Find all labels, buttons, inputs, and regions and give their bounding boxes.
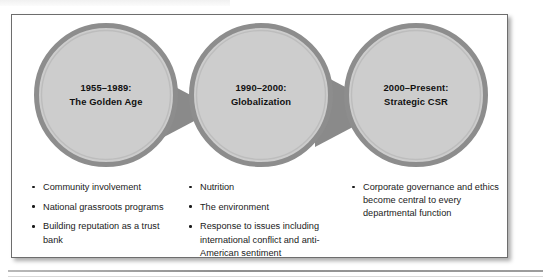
list-item-text: Building reputation as a trust bank: [43, 220, 172, 246]
list-item: Community involvement: [32, 181, 172, 194]
stage-label-strategic-csr-line1: 2000–Present:: [346, 81, 486, 95]
bullet-list-strategic-csr: Corporate governance and ethics become c…: [352, 181, 502, 221]
list-item: Nutrition: [189, 181, 339, 194]
stage-label-golden-age-line2: The Golden Age: [36, 95, 176, 109]
bullet-list-golden-age: Community involvement National grassroot…: [32, 181, 172, 247]
list-item-text: Corporate governance and ethics become c…: [363, 181, 502, 221]
list-item: Response to issues including internation…: [189, 220, 339, 260]
bullet-dot-icon: [189, 205, 192, 208]
stage-label-globalization-line2: Globalization: [191, 95, 331, 109]
list-item: Building reputation as a trust bank: [32, 220, 172, 246]
stage-label-golden-age-line1: 1955–1989:: [36, 81, 176, 95]
stage-label-globalization: 1990–2000: Globalization: [191, 81, 331, 108]
bullet-dot-icon: [189, 225, 192, 228]
page-divider-rule: [8, 270, 543, 272]
figure-frame: 1955–1989: The Golden Age 1990–2000: Glo…: [11, 14, 508, 258]
list-item-text: The environment: [200, 201, 339, 214]
list-item: Corporate governance and ethics become c…: [352, 181, 502, 221]
stage-label-golden-age: 1955–1989: The Golden Age: [36, 81, 176, 108]
list-item-text: Community involvement: [43, 181, 172, 194]
stage-label-strategic-csr: 2000–Present: Strategic CSR: [346, 81, 486, 108]
bullet-list-globalization: Nutrition The environment Response to is…: [189, 181, 339, 260]
stage-label-globalization-line1: 1990–2000:: [191, 81, 331, 95]
list-item-text: Response to issues including internation…: [200, 220, 339, 260]
list-item: National grassroots programs: [32, 201, 172, 214]
bullet-dot-icon: [352, 186, 355, 189]
page-divider-rule-secondary: [8, 276, 543, 277]
bullet-dot-icon: [189, 186, 192, 189]
list-item-text: Nutrition: [200, 181, 339, 194]
bullet-dot-icon: [32, 186, 35, 189]
list-item: The environment: [189, 201, 339, 214]
list-item-text: National grassroots programs: [43, 201, 172, 214]
bullet-dot-icon: [32, 225, 35, 228]
bullet-dot-icon: [32, 205, 35, 208]
process-diagram: 1955–1989: The Golden Age 1990–2000: Glo…: [12, 15, 509, 259]
scan-artifact-band: [0, 0, 230, 6]
stage-label-strategic-csr-line2: Strategic CSR: [346, 95, 486, 109]
